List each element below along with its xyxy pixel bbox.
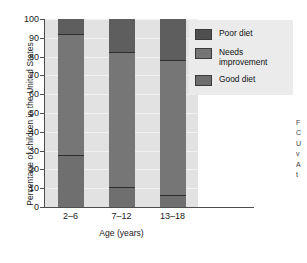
y-axis-tick	[40, 207, 45, 208]
y-axis-tick-label: 30	[0, 146, 39, 156]
y-axis-tick	[40, 169, 45, 170]
y-axis-tick	[40, 57, 45, 58]
y-axis-tick-label: 90	[0, 33, 39, 43]
bar-13-18	[160, 19, 186, 207]
y-axis-tick-label: 80	[0, 52, 39, 62]
y-axis-tick-label: 100	[0, 14, 39, 24]
y-axis-tick-label: 0	[0, 202, 39, 212]
caption-sliver-line: C	[296, 128, 307, 138]
y-axis-tick	[40, 38, 45, 39]
caption-sliver-line: F	[296, 118, 307, 128]
figure: Percentage of children in the United Sta…	[0, 0, 307, 263]
legend-label-needs-improvement: Needs improvement	[219, 47, 287, 67]
caption-sliver-line: U	[296, 139, 307, 149]
legend-item-poor-diet: Poor diet	[195, 28, 287, 40]
y-axis-tick	[40, 188, 45, 189]
x-axis-line	[44, 207, 254, 208]
legend-label-poor-diet: Poor diet	[219, 28, 253, 38]
segment-needs-improvement	[160, 60, 186, 194]
y-axis-tick-label: 40	[0, 127, 39, 137]
segment-poor-diet	[109, 19, 135, 52]
caption-sliver: FCUvAt	[296, 118, 307, 196]
plot-area	[45, 19, 198, 207]
y-axis-tick	[40, 113, 45, 114]
legend-item-needs-improvement: Needs improvement	[195, 47, 287, 67]
bar-7-12	[109, 19, 135, 207]
segment-needs-improvement	[58, 34, 84, 155]
y-axis-tick-label: 10	[0, 183, 39, 193]
segment-good-diet	[58, 155, 84, 207]
y-axis-tick	[40, 75, 45, 76]
segment-good-diet	[109, 187, 135, 207]
x-axis-tick-label: 13–18	[143, 211, 203, 221]
y-axis-tick	[40, 94, 45, 95]
y-axis-tick-label: 50	[0, 108, 39, 118]
caption-sliver-line: A	[296, 160, 307, 170]
caption-sliver-line: t	[296, 170, 307, 180]
legend-label-good-diet: Good diet	[219, 74, 255, 84]
legend-swatch-icon-needs-improvement	[195, 48, 212, 59]
legend-swatch-icon-good-diet	[195, 75, 212, 86]
caption-sliver-line: v	[296, 149, 307, 159]
segment-poor-diet	[58, 19, 84, 34]
segment-good-diet	[160, 195, 186, 207]
x-axis-title: Age (years)	[45, 228, 198, 238]
bar-2-6	[58, 19, 84, 207]
y-axis-tick	[40, 132, 45, 133]
segment-needs-improvement	[109, 52, 135, 187]
y-axis-tick-label: 60	[0, 89, 39, 99]
chart-legend: Poor diet Needs improvement Good diet	[189, 20, 293, 95]
legend-item-good-diet: Good diet	[195, 74, 287, 86]
y-axis-tick-label: 70	[0, 70, 39, 80]
y-axis-tick	[40, 151, 45, 152]
y-axis-tick	[40, 19, 45, 20]
segment-poor-diet	[160, 19, 186, 60]
legend-swatch-icon-poor-diet	[195, 29, 212, 40]
y-axis-tick-label: 20	[0, 164, 39, 174]
